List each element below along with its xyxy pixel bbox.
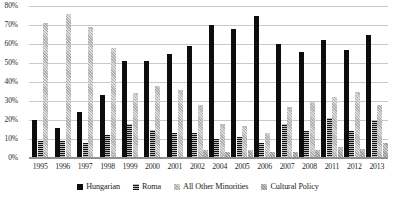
y-axis-tick-label: 60% [0, 40, 18, 48]
y-axis-tick-label: 30% [0, 97, 18, 105]
gridline [29, 158, 388, 159]
legend-label: Cultural Policy [270, 182, 318, 191]
bar-chart: 0%10%20%30%40%50%60%70%80% 1995199619971… [0, 0, 396, 203]
y-axis-tick-label: 0% [0, 154, 18, 162]
y-axis-tick-label: 10% [0, 135, 18, 143]
x-axis-label: 2008 [298, 160, 320, 174]
legend-swatch-icon [77, 184, 83, 190]
bar[interactable] [111, 48, 116, 158]
bar[interactable] [265, 133, 270, 158]
y-axis-tick-label: 50% [0, 59, 18, 67]
x-axis-label: 2005 [231, 160, 253, 174]
bar-group [51, 6, 73, 158]
bar[interactable] [310, 101, 315, 158]
x-axis-label: 1996 [51, 160, 73, 174]
bar-group [321, 6, 343, 158]
bar[interactable] [383, 143, 388, 158]
bar[interactable] [276, 44, 281, 158]
bar[interactable] [327, 118, 332, 158]
x-axis-label: 2007 [276, 160, 298, 174]
x-axis-label: 2012 [343, 160, 365, 174]
bar[interactable] [32, 120, 37, 158]
bar[interactable] [127, 124, 132, 158]
bar[interactable] [282, 124, 287, 158]
x-axis-label: 2006 [253, 160, 275, 174]
bar[interactable] [167, 54, 172, 159]
bar-group [253, 6, 275, 158]
bar-group [298, 6, 320, 158]
bar[interactable] [122, 61, 127, 158]
bar[interactable] [304, 131, 309, 158]
chart-legend: HungarianRomaAll Other MinoritiesCultura… [0, 182, 396, 191]
bar[interactable] [144, 61, 149, 158]
bar-group [186, 6, 208, 158]
legend-item[interactable]: Hungarian [77, 182, 120, 191]
bar[interactable] [237, 137, 242, 158]
bar[interactable] [133, 93, 138, 158]
legend-label: Roma [142, 182, 161, 191]
legend-swatch-icon [174, 184, 180, 190]
bar[interactable] [372, 120, 377, 158]
legend-label: All Other Minorities [183, 182, 248, 191]
bar[interactable] [150, 130, 155, 159]
x-axis-label: 2013 [366, 160, 388, 174]
bar[interactable] [242, 126, 247, 158]
bar[interactable] [55, 128, 60, 158]
bar-group [96, 6, 118, 158]
bar[interactable] [287, 107, 292, 158]
bar[interactable] [299, 52, 304, 158]
plot-area: 0%10%20%30%40%50%60%70%80% [29, 6, 388, 158]
bar[interactable] [172, 133, 177, 158]
bar[interactable] [377, 105, 382, 158]
bar[interactable] [198, 105, 203, 158]
x-axis-label: 1995 [29, 160, 51, 174]
x-axis-label: 1998 [96, 160, 118, 174]
bar[interactable] [259, 143, 264, 158]
bar[interactable] [332, 97, 337, 158]
x-axis-label: 1997 [74, 160, 96, 174]
x-axis-label: 2002 [186, 160, 208, 174]
bar[interactable] [155, 86, 160, 158]
x-axis-label: 2001 [164, 160, 186, 174]
y-axis-tick-label: 40% [0, 78, 18, 86]
bar[interactable] [192, 133, 197, 158]
bar-group [343, 6, 365, 158]
bar-group [141, 6, 163, 158]
bar[interactable] [231, 29, 236, 158]
bar[interactable] [88, 27, 93, 158]
bar[interactable] [60, 141, 65, 158]
bar[interactable] [77, 112, 82, 158]
bar-group [231, 6, 253, 158]
bar-group [209, 6, 231, 158]
bar[interactable] [214, 139, 219, 158]
legend-label: Hungarian [86, 182, 120, 191]
x-axis-line [29, 157, 388, 158]
x-axis-label: 1999 [119, 160, 141, 174]
bar[interactable] [321, 40, 326, 158]
bar[interactable] [254, 16, 259, 159]
bar[interactable] [43, 23, 48, 158]
bar[interactable] [100, 95, 105, 158]
bar[interactable] [187, 46, 192, 158]
bar[interactable] [83, 143, 88, 158]
y-axis-tick-label: 20% [0, 116, 18, 124]
bar[interactable] [220, 124, 225, 158]
bar[interactable] [66, 14, 71, 158]
bar[interactable] [349, 131, 354, 158]
legend-item[interactable]: Cultural Policy [261, 182, 318, 191]
bar[interactable] [209, 25, 214, 158]
bar-group [164, 6, 186, 158]
bar-group [366, 6, 388, 158]
bar[interactable] [38, 141, 43, 158]
bar[interactable] [355, 92, 360, 159]
legend-item[interactable]: All Other Minorities [174, 182, 248, 191]
bar-group [119, 6, 141, 158]
bar[interactable] [344, 50, 349, 158]
legend-item[interactable]: Roma [133, 182, 161, 191]
bar-group [29, 6, 51, 158]
bar[interactable] [366, 35, 371, 159]
x-axis-labels: 1995199619971998199920002001200220042005… [29, 160, 388, 174]
bar[interactable] [178, 90, 183, 158]
bar[interactable] [105, 135, 110, 158]
x-axis-label: 2004 [209, 160, 231, 174]
